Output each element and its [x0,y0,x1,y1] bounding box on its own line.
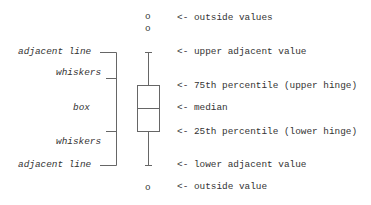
label-upper-hinge: <- 75th percentile (upper hinge) [177,81,357,91]
label-upper-adjacent-value: <- upper adjacent value [177,47,306,57]
outside-value-marker-upper-1: o [145,12,151,22]
label-outside-value: <- outside value [177,182,267,192]
outside-value-marker-lower: o [145,183,151,193]
label-whiskers-lower: whiskers [56,137,101,147]
label-lower-hinge: <- 25th percentile (lower hinge) [177,127,357,137]
boxplot [138,53,160,166]
outside-value-marker-upper-2: o [145,24,151,34]
label-lower-adjacent-value: <- lower adjacent value [177,160,306,170]
label-median: <- median [177,103,228,113]
label-adjacent-line-upper: adjacent line [18,47,91,57]
label-whiskers-upper: whiskers [56,68,101,78]
label-box: box [73,103,90,113]
label-adjacent-line-lower: adjacent line [18,160,91,170]
bracket [100,53,117,166]
label-outside-values: <- outside values [177,13,273,23]
